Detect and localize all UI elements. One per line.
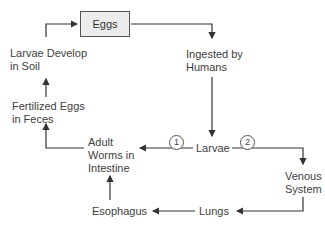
lungs-node: Lungs: [199, 205, 229, 218]
ingested-node: Ingested by Humans: [186, 48, 243, 74]
fertilized-eggs-node: Fertilized Eggs in Feces: [12, 100, 85, 126]
adult-line3: Intestine: [88, 162, 134, 175]
esophagus-node: Esophagus: [92, 205, 147, 218]
path-1-marker: 1: [169, 135, 184, 150]
larvae-node: Larvae: [196, 142, 230, 155]
larvae-soil-line1: Larvae Develop: [10, 47, 87, 60]
venous-line1: Venous: [285, 170, 322, 183]
larvae-develop-node: Larvae Develop in Soil: [10, 47, 87, 73]
eggs-box: Eggs: [80, 11, 130, 37]
adult-line2: Worms in: [88, 149, 134, 162]
adult-line1: Adult: [88, 136, 134, 149]
fertilized-line2: in Feces: [12, 113, 85, 126]
esophagus-label: Esophagus: [92, 205, 147, 217]
path-2-marker: 2: [240, 135, 255, 150]
venous-node: Venous System: [285, 170, 322, 196]
eggs-label: Eggs: [92, 18, 117, 30]
adult-worms-node: Adult Worms in Intestine: [88, 136, 134, 175]
ingested-line1: Ingested by: [186, 48, 243, 61]
lungs-label: Lungs: [199, 205, 229, 217]
larvae-soil-line2: in Soil: [10, 60, 87, 73]
ingested-line2: Humans: [186, 61, 243, 74]
venous-line2: System: [285, 183, 322, 196]
larvae-label: Larvae: [196, 142, 230, 154]
fertilized-line1: Fertilized Eggs: [12, 100, 85, 113]
